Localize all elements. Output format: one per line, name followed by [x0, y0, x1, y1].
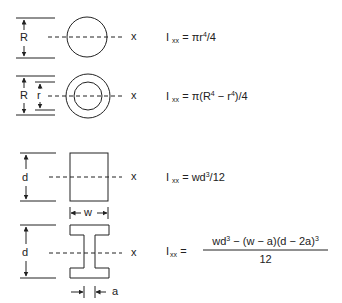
formula-rhs-tail: /12 [210, 171, 225, 183]
formula-lhs: I [166, 90, 169, 102]
axis-label-x: x [131, 90, 137, 101]
axis-label-x: x [131, 171, 137, 182]
formula-rhs-mid: − r [215, 90, 231, 102]
formula-equals: = [182, 90, 188, 102]
formula-rhs-tail: )/4 [235, 90, 248, 102]
formula-i-beam-lhs: Ixx = [166, 245, 187, 261]
dim-label-a: a [112, 286, 118, 297]
dim-label-d: d [22, 247, 28, 258]
formula-i-beam-denominator: 12 [203, 253, 328, 265]
dim-label-d: d [22, 172, 28, 183]
axis-label-x: x [131, 31, 137, 42]
formula-equals: = [182, 31, 188, 43]
dim-label-R: R [20, 90, 28, 101]
solid-circle-shape [16, 17, 122, 58]
numerator-term-a: wd [212, 235, 226, 247]
formula-subscript: xx [170, 251, 177, 258]
formula-lhs: I [166, 171, 169, 183]
dim-label-w: w [84, 207, 92, 218]
formula-rhs-tail: /4 [207, 31, 216, 43]
numerator-term-b: − (w − a)(d − 2a) [230, 235, 315, 247]
rectangle-shape [20, 153, 122, 219]
formula-subscript: xx [172, 96, 179, 103]
i-beam-shape [20, 225, 122, 298]
formula-rectangle: Ixx = wd3/12 [166, 171, 225, 187]
axis-label-x: x [131, 247, 137, 258]
formula-subscript: xx [172, 177, 179, 184]
formula-equals: = [180, 245, 186, 257]
formula-solid-circle: Ixx = πr4/4 [166, 31, 216, 47]
formula-rhs: π(R [192, 90, 211, 102]
dim-label-R: R [20, 32, 28, 43]
formula-exponent: 3 [315, 235, 319, 242]
formula-i-beam-numerator: wd3 − (w − a)(d − 2a)3 [203, 235, 328, 247]
formula-subscript: xx [172, 37, 179, 44]
formula-rhs: wd [192, 171, 206, 183]
formula-hollow-circle: Ixx = π(R4 − r4)/4 [166, 90, 248, 106]
dim-label-r: r [37, 90, 41, 101]
formula-rhs: πr [192, 31, 203, 43]
formula-lhs: I [166, 31, 169, 43]
formula-lhs: I [166, 245, 169, 257]
denominator: 12 [259, 253, 271, 265]
formula-equals: = [182, 171, 188, 183]
hollow-circle-shape [16, 74, 122, 118]
